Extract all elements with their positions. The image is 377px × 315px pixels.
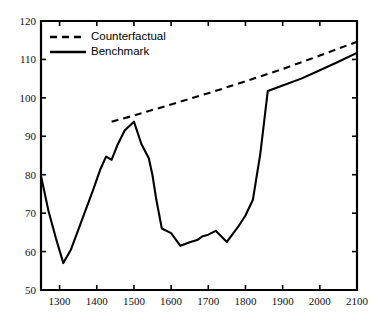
legend-label-counterfactual: Counterfactual [91,30,166,42]
x-tick-label: 1700 [197,295,220,307]
series-benchmark [41,53,357,263]
x-tick-label: 1500 [123,295,146,307]
y-tick-label: 100 [20,92,37,104]
y-tick-label: 110 [20,53,37,65]
y-tick-label: 60 [25,246,37,258]
y-tick-label: 90 [25,130,37,142]
plot-frame [41,21,357,290]
line-chart: 5060708090100110120 13001400150016001700… [0,0,377,315]
x-tick-label: 1400 [86,295,109,307]
chart-legend: CounterfactualBenchmark [50,30,166,57]
y-tick-label: 70 [25,207,37,219]
y-tick-label: 50 [25,284,37,296]
x-tick-label: 2000 [309,295,332,307]
y-tick-label: 120 [20,15,37,27]
y-tick-label: 80 [25,169,37,181]
x-tick-label: 1300 [49,295,72,307]
chart-container: 5060708090100110120 13001400150016001700… [0,0,377,315]
x-tick-label: 1800 [234,295,257,307]
x-axis-tick-labels: 130014001500160017001800190020002100 [49,295,369,307]
data-series-layer [41,42,357,263]
x-tick-label: 1600 [160,295,183,307]
legend-label-benchmark: Benchmark [91,45,149,57]
y-axis-tick-labels: 5060708090100110120 [20,15,37,296]
x-tick-label: 2100 [346,295,369,307]
x-tick-label: 1900 [272,295,295,307]
